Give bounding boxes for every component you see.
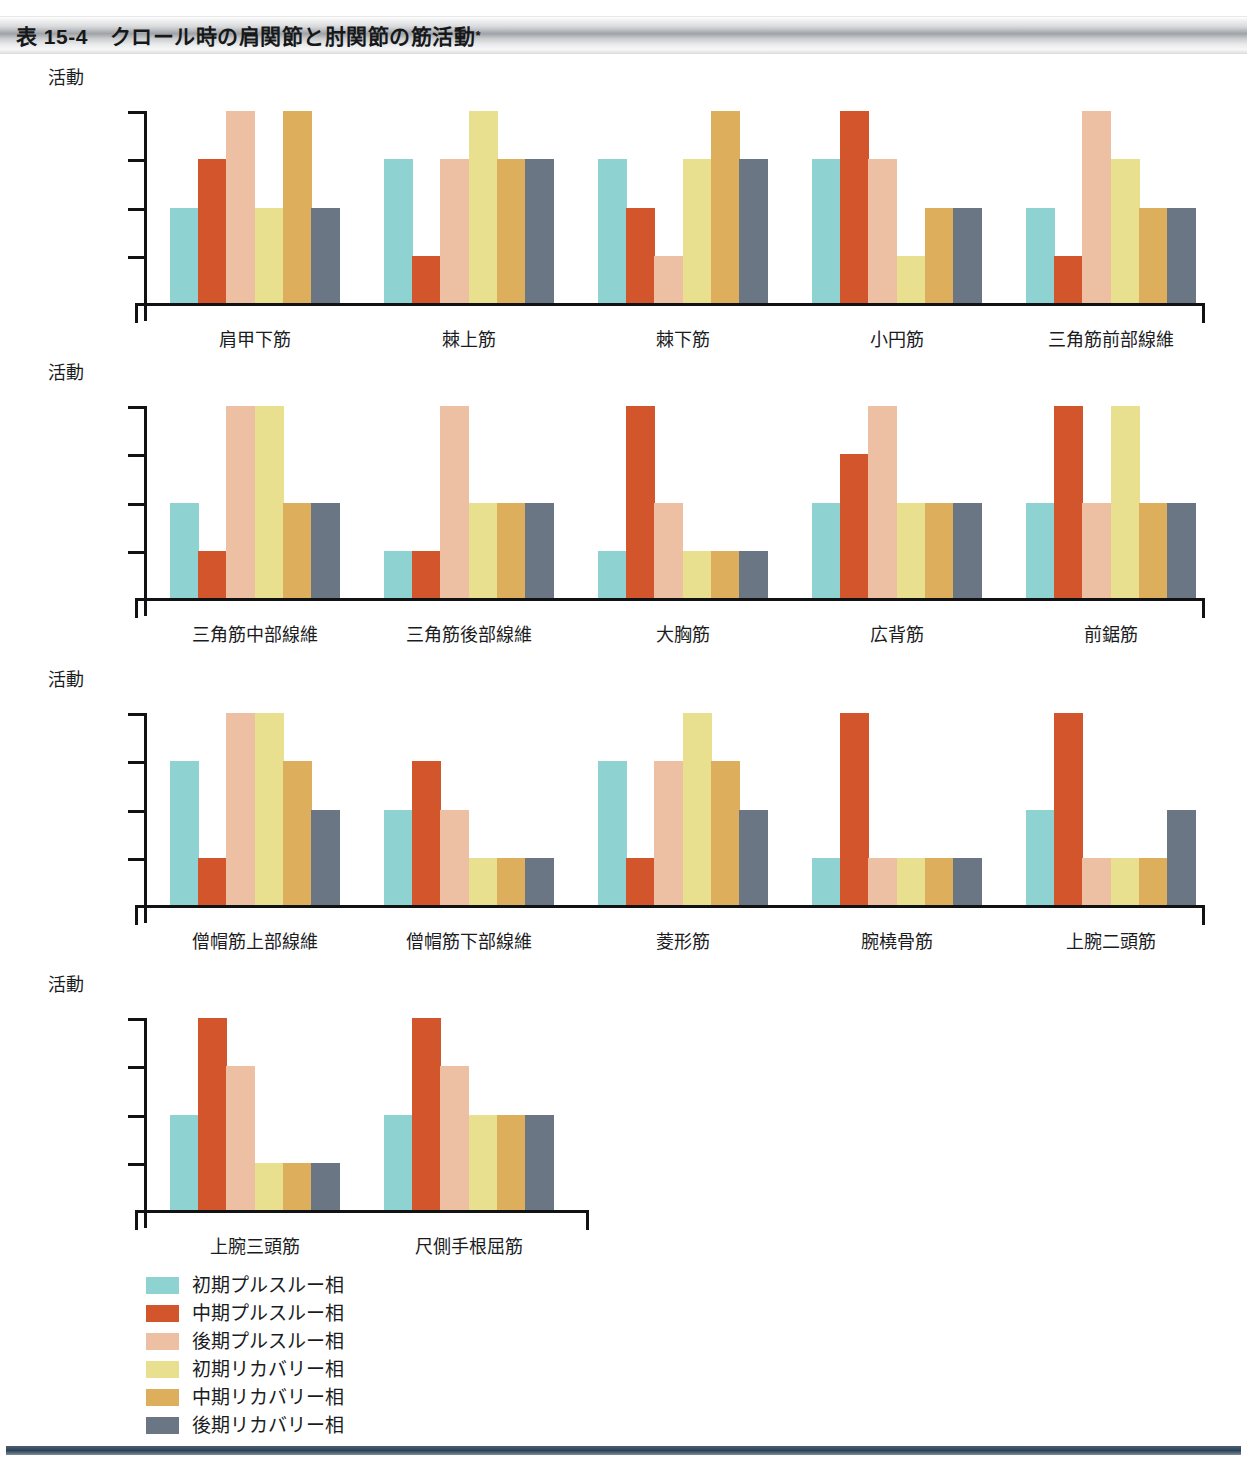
x-axis-line	[135, 598, 1205, 601]
legend-label: 後期プルスルー相	[192, 1332, 344, 1351]
y-tick-2	[128, 159, 144, 162]
bar	[469, 503, 498, 598]
y-tick-1	[128, 406, 144, 409]
y-tick-4	[128, 858, 144, 861]
bar	[1026, 208, 1055, 303]
bar	[897, 503, 926, 598]
legend-label: 中期リカバリー相	[192, 1388, 344, 1407]
bar	[1082, 858, 1111, 905]
bar	[812, 503, 841, 598]
bar	[840, 713, 869, 905]
bar	[255, 713, 284, 905]
bar	[598, 761, 627, 905]
bar	[626, 208, 655, 303]
bar	[525, 503, 554, 598]
bar	[1082, 503, 1111, 598]
bar	[283, 503, 312, 598]
bar	[170, 1115, 199, 1210]
bar	[953, 858, 982, 905]
bar	[469, 111, 498, 303]
legend-item: 初期リカバリー相	[146, 1356, 344, 1382]
bar	[925, 208, 954, 303]
y-tick-3	[128, 503, 144, 506]
bar	[497, 159, 526, 303]
x-axis-cap-right	[586, 1210, 589, 1230]
bar	[1167, 208, 1196, 303]
bar	[1026, 810, 1055, 905]
x-group-label: 棘上筋	[442, 325, 496, 351]
x-group-label: 僧帽筋下部線維	[406, 927, 532, 953]
table-number: 表 15-4	[16, 20, 88, 50]
bar	[311, 810, 340, 905]
bar	[598, 159, 627, 303]
y-axis-line	[144, 713, 147, 923]
bar	[440, 406, 469, 598]
bar	[311, 1163, 340, 1210]
bar	[384, 551, 413, 598]
legend-label: 初期プルスルー相	[192, 1276, 344, 1295]
bar	[497, 858, 526, 905]
x-axis-cap-right	[1202, 303, 1205, 323]
y-axis-caption: 活動	[48, 970, 84, 996]
legend-swatch-icon	[146, 1361, 179, 1378]
bar	[1167, 503, 1196, 598]
bar	[1139, 503, 1168, 598]
y-tick-2	[128, 454, 144, 457]
bar	[525, 1115, 554, 1210]
x-group-label: 菱形筋	[656, 927, 710, 953]
bar	[868, 858, 897, 905]
legend-swatch-icon	[146, 1305, 179, 1322]
x-group-label: 小円筋	[870, 325, 924, 351]
legend-item: 中期リカバリー相	[146, 1384, 344, 1410]
x-group-label: 三角筋中部線維	[192, 620, 318, 646]
bar	[1054, 713, 1083, 905]
bar	[1167, 810, 1196, 905]
bar	[683, 551, 712, 598]
bar	[226, 111, 255, 303]
bar	[654, 256, 683, 303]
x-axis-cap-left	[135, 905, 138, 925]
x-axis-line	[135, 303, 1205, 306]
legend: 初期プルスルー相中期プルスルー相後期プルスルー相初期リカバリー相中期リカバリー相…	[146, 1272, 344, 1440]
bar	[497, 503, 526, 598]
x-group-label: 尺側手根屈筋	[415, 1232, 523, 1258]
bar	[654, 761, 683, 905]
y-axis-line	[144, 1018, 147, 1228]
y-tick-1	[128, 1018, 144, 1021]
bar	[711, 761, 740, 905]
x-group-label: 肩甲下筋	[219, 325, 291, 351]
bar	[840, 111, 869, 303]
bar	[311, 503, 340, 598]
y-tick-2	[128, 761, 144, 764]
y-tick-3	[128, 208, 144, 211]
bar	[440, 159, 469, 303]
x-axis-cap-left	[135, 303, 138, 323]
legend-swatch-icon	[146, 1417, 179, 1434]
x-group-label: 上腕三頭筋	[210, 1232, 300, 1258]
bar	[953, 503, 982, 598]
bar	[311, 208, 340, 303]
bar	[255, 208, 284, 303]
figure-page: 表 15-4 クロール時の肩関節と肘関節の筋活動 * 活動ピーク高度中等度最小〜…	[0, 0, 1247, 1465]
bar	[711, 111, 740, 303]
bar	[170, 503, 199, 598]
bar	[626, 858, 655, 905]
legend-item: 後期プルスルー相	[146, 1328, 344, 1354]
y-tick-4	[128, 256, 144, 259]
x-axis-cap-left	[135, 598, 138, 618]
bar	[412, 256, 441, 303]
bar	[1082, 111, 1111, 303]
bar	[283, 1163, 312, 1210]
bar	[255, 406, 284, 598]
legend-swatch-icon	[146, 1333, 179, 1350]
x-group-label: 前鋸筋	[1084, 620, 1138, 646]
x-axis-cap-right	[1202, 905, 1205, 925]
bar	[868, 406, 897, 598]
legend-item: 初期プルスルー相	[146, 1272, 344, 1298]
bar	[812, 858, 841, 905]
legend-label: 後期リカバリー相	[192, 1416, 344, 1435]
y-tick-3	[128, 810, 144, 813]
bar	[1111, 858, 1140, 905]
bar	[868, 159, 897, 303]
y-axis-caption: 活動	[48, 358, 84, 384]
